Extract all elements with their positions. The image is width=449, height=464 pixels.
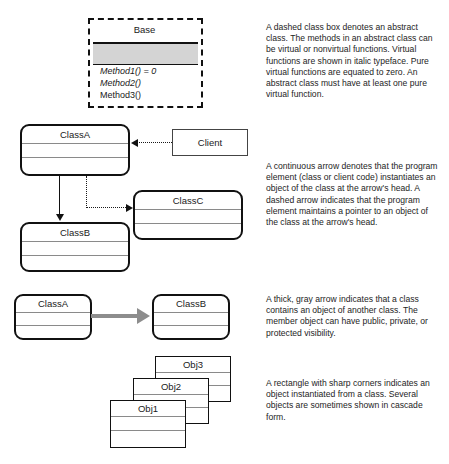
- classa-attributes-compartment: [22, 143, 128, 157]
- dashed-arrowhead-into-classc: [126, 204, 133, 212]
- classb-name-compartment: ClassB: [22, 224, 128, 241]
- solid-arrow-classa-to-classb-shaft: [59, 176, 60, 216]
- classc-operations-compartment: [135, 223, 241, 240]
- classc-class-name: ClassC: [135, 192, 241, 209]
- classa-name-compartment: ClassA: [22, 126, 128, 143]
- class-box-classc: ClassC: [133, 190, 243, 240]
- class-box-classb-containment: ClassB: [152, 294, 230, 340]
- note-instantiation-arrows: A continuous arrow denotes that the prog…: [266, 161, 442, 228]
- dashed-arrowhead-into-classa: [131, 139, 138, 147]
- uml-legend-diagram: Base Method1() = 0 Method2() Method3() A…: [0, 0, 449, 464]
- abstract-method-3: Method3(): [100, 90, 141, 101]
- classb-attributes-compartment: [22, 241, 128, 255]
- abstract-attributes-compartment: [93, 44, 198, 64]
- classb-operations-compartment: [22, 255, 128, 272]
- containment-classa-attributes-compartment: [16, 312, 90, 325]
- dashed-arrow-classa-to-classc-horizontal: [86, 207, 126, 208]
- obj2-label: Obj2: [134, 379, 208, 394]
- classb-class-name: ClassB: [22, 224, 128, 241]
- client-label: Client: [173, 130, 247, 155]
- containment-target-class-name: ClassB: [154, 296, 228, 312]
- obj2-name-compartment: Obj2: [134, 379, 208, 394]
- class-box-classb-arrows: ClassB: [20, 222, 130, 272]
- obj1-operations-compartment: [111, 430, 185, 446]
- class-box-classa-containment: ClassA: [14, 294, 92, 340]
- class-box-classa-arrows: ClassA: [20, 124, 130, 176]
- containment-classb-name-compartment: ClassB: [154, 296, 228, 312]
- gray-aggregation-arrowhead: [137, 308, 150, 324]
- abstract-method-1: Method1() = 0: [100, 66, 156, 77]
- classc-name-compartment: ClassC: [135, 192, 241, 209]
- note-containment: A thick, gray arrow indicates that a cla…: [266, 294, 442, 339]
- classa-operations-compartment: [22, 157, 128, 176]
- obj3-label: Obj3: [156, 357, 230, 372]
- dashed-arrow-client-to-classa: [139, 142, 172, 143]
- abstract-divider-bottom: [93, 64, 198, 66]
- abstract-class-box-base: Base Method1() = 0 Method2() Method3(): [88, 18, 203, 108]
- client-name-compartment: Client: [173, 130, 247, 155]
- classa-class-name: ClassA: [22, 126, 128, 143]
- obj3-name-compartment: Obj3: [156, 357, 230, 372]
- classc-attributes-compartment: [135, 209, 241, 223]
- containment-classb-attributes-compartment: [154, 312, 228, 325]
- obj1-attributes-compartment: [111, 416, 185, 430]
- solid-arrowhead-into-classb: [56, 214, 64, 221]
- containment-classa-operations-compartment: [16, 325, 90, 340]
- obj1-label: Obj1: [111, 401, 185, 416]
- obj1-name-compartment: Obj1: [111, 401, 185, 416]
- dashed-arrow-classa-to-classc-vertical: [86, 176, 87, 208]
- abstract-method-2: Method2(): [100, 78, 141, 89]
- abstract-class-name: Base: [90, 24, 199, 35]
- note-abstract-class: A dashed class box denotes an abstract c…: [266, 22, 442, 100]
- gray-aggregation-arrow-shaft: [91, 314, 139, 318]
- client-box: Client: [172, 129, 248, 156]
- object-box-obj1: Obj1: [110, 400, 186, 448]
- note-objects-cascade: A rectangle with sharp corners indicates…: [266, 378, 442, 423]
- containment-classa-name-compartment: ClassA: [16, 296, 90, 312]
- containment-source-class-name: ClassA: [16, 296, 90, 312]
- containment-classb-operations-compartment: [154, 325, 228, 340]
